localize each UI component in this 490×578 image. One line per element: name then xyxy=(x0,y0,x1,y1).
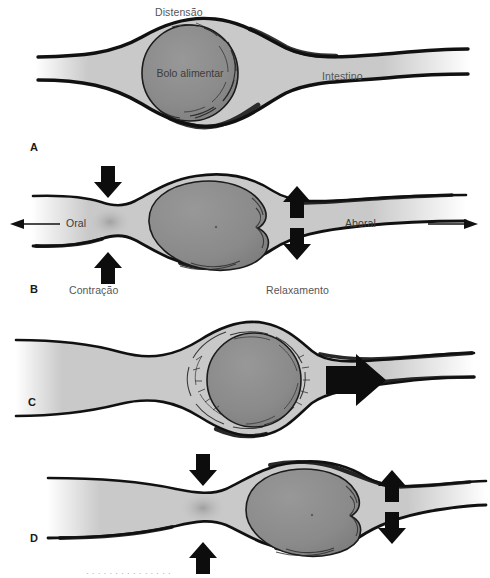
contraction-arrow-down-d xyxy=(189,454,217,486)
caption-sliver-text: · · · · · · · · · · · · · · · xyxy=(86,573,490,578)
label-aboral-b: Aboral xyxy=(345,217,376,229)
bolus-center-dot-b xyxy=(215,226,217,228)
label-contraction-b: Contração xyxy=(69,284,118,296)
panel-b-contraction: Oral Aboral Contração Relaxamento B xyxy=(0,158,490,308)
label-oral-b: Oral xyxy=(66,217,86,229)
panel-a-distension: Bolo alimentar Distensão Intestino A xyxy=(0,0,490,158)
peristalsis-figure: Bolo alimentar Distensão Intestino A xyxy=(0,0,490,578)
label-intestine-a: Intestino xyxy=(322,70,363,82)
panel-c-propulsion: C xyxy=(0,308,490,448)
contraction-arrow-up-d xyxy=(189,542,217,574)
label-bolus-a: Bolo alimentar xyxy=(156,67,224,79)
bolus-c xyxy=(207,333,301,427)
bolus-center-dot-d xyxy=(311,514,313,516)
label-relaxation-b: Relaxamento xyxy=(266,284,329,296)
panel-c-illustration xyxy=(0,308,490,448)
panel-d-advancing-contraction: D xyxy=(0,448,490,578)
contraction-arrow-down-b xyxy=(94,166,122,198)
panel-letter-c: C xyxy=(28,396,36,408)
panel-letter-a: A xyxy=(30,141,38,153)
constriction-shadow-b xyxy=(88,206,132,238)
caption-sliver: · · · · · · · · · · · · · · · xyxy=(0,573,490,578)
panel-d-illustration xyxy=(0,448,490,578)
panel-letter-d: D xyxy=(30,532,38,544)
panel-letter-b: B xyxy=(30,283,38,295)
label-distension-a: Distensão xyxy=(155,6,203,18)
panel-a-illustration: Bolo alimentar xyxy=(0,0,490,158)
constriction-shadow-d xyxy=(179,491,227,525)
contraction-arrow-up-b xyxy=(94,252,122,284)
